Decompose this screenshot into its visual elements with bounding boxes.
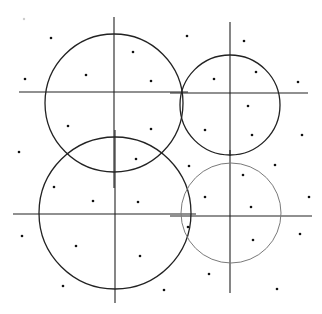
point <box>187 226 190 229</box>
point <box>251 134 254 137</box>
point <box>255 71 258 74</box>
point <box>186 35 189 38</box>
point <box>274 164 277 167</box>
point <box>204 196 207 199</box>
point <box>188 165 191 168</box>
voronoi-circle-diagram <box>0 0 322 314</box>
point <box>213 78 216 81</box>
point <box>139 255 142 258</box>
point <box>50 37 53 40</box>
point <box>75 245 78 248</box>
circle-bottom-right <box>181 163 281 263</box>
circles <box>39 34 281 289</box>
point <box>137 201 140 204</box>
point <box>24 78 27 81</box>
point <box>62 285 65 288</box>
point <box>204 129 207 132</box>
point <box>135 158 138 161</box>
point <box>299 233 302 236</box>
point <box>163 289 166 292</box>
point <box>247 105 250 108</box>
point <box>67 125 70 128</box>
point <box>208 273 211 276</box>
point <box>301 134 304 137</box>
point <box>21 235 24 238</box>
point <box>297 81 300 84</box>
point <box>18 151 21 154</box>
point <box>308 196 311 199</box>
point <box>85 74 88 77</box>
axis-lines <box>13 17 312 303</box>
point <box>150 128 153 131</box>
point <box>150 80 153 83</box>
point <box>276 288 279 291</box>
point <box>250 206 253 209</box>
point <box>242 174 245 177</box>
point <box>243 40 246 43</box>
point <box>252 239 255 242</box>
point <box>132 51 135 54</box>
point <box>53 186 56 189</box>
point <box>92 200 95 203</box>
faint-point <box>23 18 25 20</box>
